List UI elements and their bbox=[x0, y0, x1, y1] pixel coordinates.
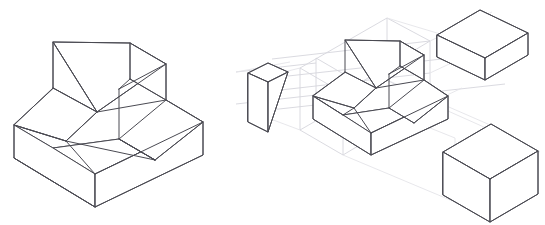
inclined-slab-right-end-face bbox=[130, 43, 166, 100]
main-body-exploded bbox=[313, 40, 448, 155]
main-body bbox=[14, 42, 203, 207]
exploded-isometric-view bbox=[236, 10, 540, 222]
technical-drawing-svg bbox=[0, 0, 545, 225]
cube-piece bbox=[443, 124, 538, 222]
wedge-piece bbox=[248, 63, 288, 132]
rectangular-block-piece bbox=[437, 10, 528, 80]
drawing-canvas bbox=[0, 0, 545, 225]
assembled-isometric-view bbox=[14, 42, 203, 207]
